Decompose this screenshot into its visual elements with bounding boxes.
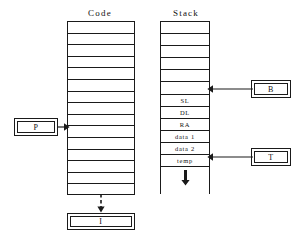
stack-row-data-2: data 2 — [161, 143, 209, 155]
down-arrow-icon — [181, 170, 190, 186]
stack-row-empty — [161, 70, 209, 82]
pointer-label-p: P — [33, 123, 38, 132]
stack-row-empty — [161, 58, 209, 70]
stack-row-empty — [161, 22, 209, 34]
pointer-box-t[interactable]: T — [251, 148, 291, 166]
arrow-p-to-code-icon — [57, 120, 70, 134]
pointer-label-b: B — [268, 85, 274, 94]
stack-row-sl: SL — [161, 95, 209, 107]
stack-row-data-1: data 1 — [161, 131, 209, 143]
stack-row-empty — [161, 82, 209, 94]
pointer-box-p-inner: P — [17, 121, 55, 133]
code-row — [68, 138, 134, 150]
pointer-box-i[interactable]: I — [67, 213, 135, 230]
stack-row-empty — [161, 34, 209, 46]
code-row — [68, 173, 134, 185]
stack-column-title: Stack — [150, 8, 222, 18]
code-row — [68, 92, 134, 104]
arrow-b-to-stack-icon — [207, 82, 253, 96]
pointer-label-i: I — [99, 217, 102, 226]
pointer-box-i-inner: I — [70, 216, 132, 227]
stack-row-dl: DL — [161, 107, 209, 119]
stack-row-empty — [161, 46, 209, 58]
code-row — [68, 150, 134, 162]
code-row — [68, 115, 134, 127]
pointer-box-b[interactable]: B — [251, 80, 291, 98]
arrow-t-to-stack-icon — [207, 150, 253, 164]
stack-column: SLDLRAdata 1data 2temp — [160, 21, 210, 167]
stack-row-ra: RA — [161, 119, 209, 131]
pointer-box-b-inner: B — [254, 83, 288, 95]
arrow-code-to-i-icon — [94, 194, 108, 214]
code-row — [68, 126, 134, 138]
code-row — [68, 80, 134, 92]
code-row — [68, 68, 134, 80]
code-column-title: Code — [58, 8, 142, 18]
code-row — [68, 45, 134, 57]
code-column — [67, 21, 135, 195]
memory-layout-diagram: Code Stack SLDLRAdata 1data 2temp P B — [0, 0, 296, 236]
code-row — [68, 57, 134, 69]
pointer-box-p[interactable]: P — [14, 118, 58, 136]
pointer-label-t: T — [268, 153, 274, 162]
stack-row-temp: temp — [161, 155, 209, 167]
code-row — [68, 103, 134, 115]
pointer-box-t-inner: T — [254, 151, 288, 163]
code-row — [68, 22, 134, 34]
code-row — [68, 34, 134, 46]
code-row — [68, 161, 134, 173]
